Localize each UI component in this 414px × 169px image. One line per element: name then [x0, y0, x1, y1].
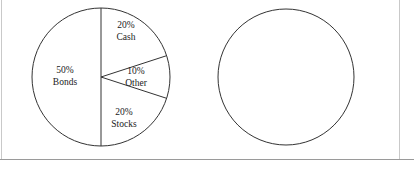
slice-label-stocks-name: Stocks [111, 119, 137, 129]
worksheet-figure-page: 20% Cash 10% Other 20% Stocks 50% Bonds [0, 0, 414, 169]
slice-label-bonds-name: Bonds [53, 77, 78, 87]
slice-label-cash-name: Cash [117, 32, 136, 42]
slice-label-other-percent: 10% [127, 66, 145, 76]
blank-pie-chart [218, 9, 354, 145]
slice-label-bonds-percent: 50% [56, 65, 74, 75]
blank-pie-circle-outline [218, 9, 354, 145]
slice-label-cash-percent: 20% [117, 20, 135, 30]
figure-canvas: 20% Cash 10% Other 20% Stocks 50% Bonds [0, 0, 414, 169]
slice-label-stocks-percent: 20% [115, 107, 133, 117]
slice-label-other-name: Other [125, 78, 147, 88]
completed-pie-chart: 20% Cash 10% Other 20% Stocks 50% Bonds [32, 8, 170, 146]
